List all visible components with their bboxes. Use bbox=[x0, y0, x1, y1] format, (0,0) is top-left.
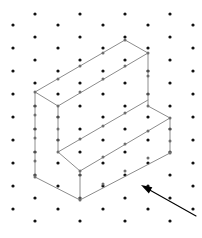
solid-vertex-dot bbox=[34, 137, 37, 140]
grid-dot bbox=[56, 161, 59, 164]
grid-dot bbox=[78, 12, 81, 15]
grid-dot bbox=[168, 173, 171, 176]
grid-dot bbox=[101, 115, 104, 118]
grid-dot bbox=[101, 207, 104, 210]
grid-dot bbox=[191, 207, 194, 210]
grid-dot bbox=[56, 69, 59, 72]
solid-vertex-dot bbox=[79, 91, 82, 94]
grid-dot bbox=[11, 23, 14, 26]
grid-dot bbox=[123, 58, 126, 61]
pointer-arrow-layer bbox=[141, 185, 196, 216]
solid-vertex-dot bbox=[169, 117, 172, 120]
solid-vertex-dot bbox=[79, 199, 82, 202]
grid-dot bbox=[11, 92, 14, 95]
solid-vertex-dot bbox=[57, 105, 60, 108]
solid-vertex-dot bbox=[147, 157, 150, 160]
grid-dot bbox=[56, 46, 59, 49]
solid-vertex-dot bbox=[169, 152, 172, 155]
arrow-shaft bbox=[149, 189, 196, 216]
solid-vertex-dot bbox=[102, 183, 105, 186]
solid-vertex-dot bbox=[102, 52, 105, 55]
grid-dot bbox=[78, 81, 81, 84]
grid-dot bbox=[123, 219, 126, 222]
grid-dot bbox=[11, 69, 14, 72]
grid-dot bbox=[56, 184, 59, 187]
grid-dot bbox=[123, 127, 126, 130]
grid-dot bbox=[56, 92, 59, 95]
solid-vertex-dot bbox=[102, 78, 105, 81]
grid-dot bbox=[78, 127, 81, 130]
solid-vertex-dot bbox=[34, 176, 37, 179]
arrow-head bbox=[141, 185, 152, 193]
grid-dot bbox=[101, 138, 104, 141]
grid-dot bbox=[191, 115, 194, 118]
grid-dot bbox=[33, 196, 36, 199]
grid-dot bbox=[56, 23, 59, 26]
solid-vertex-dot bbox=[124, 112, 127, 115]
solid-vertex-dot bbox=[124, 170, 127, 173]
grid-dot bbox=[123, 104, 126, 107]
grid-dot bbox=[33, 12, 36, 15]
grid-dot bbox=[123, 81, 126, 84]
grid-dot bbox=[33, 81, 36, 84]
grid-dot bbox=[101, 69, 104, 72]
solid-vertex-dot bbox=[147, 52, 150, 55]
grid-dot bbox=[191, 69, 194, 72]
solid-faces bbox=[35, 40, 170, 200]
grid-dot bbox=[123, 35, 126, 38]
grid-dot bbox=[191, 161, 194, 164]
grid-dot bbox=[146, 115, 149, 118]
solid-vertex-dot bbox=[79, 170, 82, 173]
solid-vertex-dot bbox=[169, 140, 172, 143]
grid-dot bbox=[101, 23, 104, 26]
grid-dot bbox=[146, 138, 149, 141]
grid-dot bbox=[11, 184, 14, 187]
solid-vertex-dot bbox=[147, 105, 150, 108]
grid-dot bbox=[33, 219, 36, 222]
solid-vertex-dot bbox=[102, 125, 105, 128]
solid-vertex-dot bbox=[57, 78, 60, 81]
solid-vertex-dot bbox=[57, 128, 60, 131]
grid-dot bbox=[123, 150, 126, 153]
solid-vertex-dot bbox=[124, 143, 127, 146]
isometric-figure-canvas bbox=[0, 0, 202, 238]
grid-dot bbox=[191, 138, 194, 141]
grid-dot bbox=[168, 12, 171, 15]
grid-dot bbox=[191, 184, 194, 187]
solid-vertex-dot bbox=[34, 91, 37, 94]
solid-vertex-dot bbox=[57, 151, 60, 154]
grid-dot bbox=[11, 138, 14, 141]
grid-dot bbox=[168, 196, 171, 199]
grid-dot bbox=[78, 58, 81, 61]
figure-drawing bbox=[0, 0, 202, 238]
grid-dot bbox=[168, 81, 171, 84]
grid-dot bbox=[78, 35, 81, 38]
grid-dot bbox=[191, 23, 194, 26]
grid-dot bbox=[11, 161, 14, 164]
grid-dot bbox=[33, 35, 36, 38]
solid-vertex-dot bbox=[147, 130, 150, 133]
grid-dot bbox=[11, 46, 14, 49]
grid-dot bbox=[33, 58, 36, 61]
grid-dot bbox=[146, 23, 149, 26]
solid-vertex-dot bbox=[124, 39, 127, 42]
grid-dot bbox=[146, 46, 149, 49]
grid-dot bbox=[101, 46, 104, 49]
solid-vertex-dot bbox=[34, 160, 37, 163]
solid-vertex-dot bbox=[124, 65, 127, 68]
grid-dot bbox=[123, 196, 126, 199]
grid-dot bbox=[168, 58, 171, 61]
grid-dot bbox=[146, 207, 149, 210]
grid-dot bbox=[78, 150, 81, 153]
solid-vertex-dot bbox=[34, 114, 37, 117]
grid-dot bbox=[56, 207, 59, 210]
grid-dot bbox=[123, 12, 126, 15]
grid-dot bbox=[101, 161, 104, 164]
grid-dot bbox=[78, 104, 81, 107]
grid-dot bbox=[168, 35, 171, 38]
solid-vertex-dot bbox=[79, 65, 82, 68]
grid-dot bbox=[11, 115, 14, 118]
grid-dot bbox=[191, 46, 194, 49]
grid-dot bbox=[101, 92, 104, 95]
solid-vertex-dot bbox=[102, 156, 105, 159]
